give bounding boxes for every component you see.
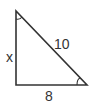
- angle-arc-bottom-right: [77, 78, 80, 85]
- label-vertical-leg: x: [6, 49, 13, 65]
- triangle-diagram: x 10 8: [0, 0, 98, 103]
- label-horizontal-leg: 8: [45, 88, 53, 103]
- right-triangle: [16, 11, 87, 85]
- label-hypotenuse: 10: [54, 36, 70, 52]
- angle-arc-top: [16, 17, 22, 19]
